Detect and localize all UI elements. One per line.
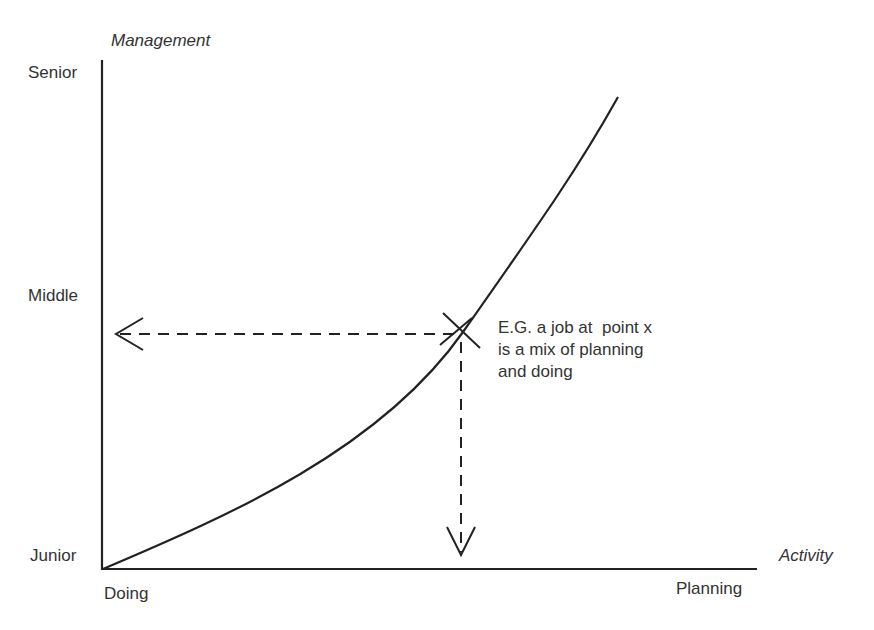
x-label-planning: Planning [676,580,742,597]
annotation-line-1: E.G. a job at point x [498,317,652,339]
y-label-junior: Junior [30,547,76,564]
diagram-canvas [0,0,874,630]
annotation-line-2: is a mix of planning [498,339,652,361]
y-label-middle: Middle [28,287,78,304]
point-x-annotation: E.G. a job at point x is a mix of planni… [498,317,652,383]
x-label-doing: Doing [104,585,148,602]
y-axis-title: Management [111,32,210,49]
x-axis-title: Activity [779,547,833,564]
y-label-senior: Senior [28,64,77,81]
annotation-line-3: and doing [498,361,652,383]
